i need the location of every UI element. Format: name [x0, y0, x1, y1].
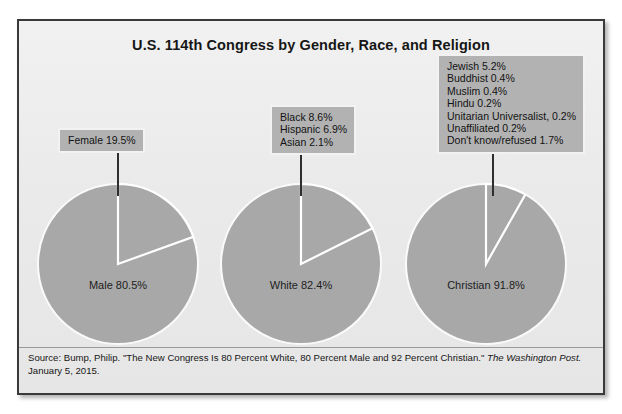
chart-figure: U.S. 114th Congress by Gender, Race, and…	[17, 19, 605, 395]
leader-line-gender	[117, 152, 119, 196]
legend-item-muslim: Muslim 0.4%	[447, 85, 576, 97]
pie-gender-svg	[36, 182, 200, 346]
source-note-prefix: Source: Bump, Philip. "The New Congress …	[28, 352, 487, 363]
pie-gender-main-label: Male 80.5%	[36, 279, 200, 291]
pie-race-svg	[219, 182, 383, 346]
legend-item-hispanic: Hispanic 6.9%	[280, 123, 347, 135]
legend-item-buddhist: Buddhist 0.4%	[447, 72, 576, 84]
pie-chart-religion: Christian 91.8%	[404, 182, 568, 346]
source-divider	[19, 347, 603, 348]
pie-chart-gender: Male 80.5%	[36, 182, 200, 346]
legend-item-unitarian-universalist: Unitarian Universalist, 0.2%	[447, 110, 576, 122]
legend-item-unaffiliated: Unaffiliated 0.2%	[447, 122, 576, 134]
legend-box-religion: Jewish 5.2% Buddhist 0.4% Muslim 0.4% Hi…	[437, 54, 585, 154]
source-note-suffix: January 5, 2015.	[28, 365, 99, 376]
legend-item-hindu: Hindu 0.2%	[447, 97, 576, 109]
legend-box-gender: Female 19.5%	[58, 128, 145, 153]
legend-item-dont-know-refused: Don't know/refused 1.7%	[447, 134, 576, 146]
pie-chart-race: White 82.4%	[219, 182, 383, 346]
pie-religion-svg	[404, 182, 568, 346]
pie-race-main-label: White 82.4%	[219, 279, 383, 291]
legend-item-black: Black 8.6%	[280, 111, 347, 123]
source-note: Source: Bump, Philip. "The New Congress …	[28, 352, 594, 377]
source-note-publication: The Washington Post.	[487, 352, 581, 363]
legend-box-race: Black 8.6% Hispanic 6.9% Asian 2.1%	[270, 105, 356, 155]
chart-title: U.S. 114th Congress by Gender, Race, and…	[19, 37, 603, 53]
legend-item-female: Female 19.5%	[68, 134, 136, 146]
legend-item-asian: Asian 2.1%	[280, 136, 347, 148]
legend-item-jewish: Jewish 5.2%	[447, 60, 576, 72]
pie-religion-main-label: Christian 91.8%	[404, 279, 568, 291]
